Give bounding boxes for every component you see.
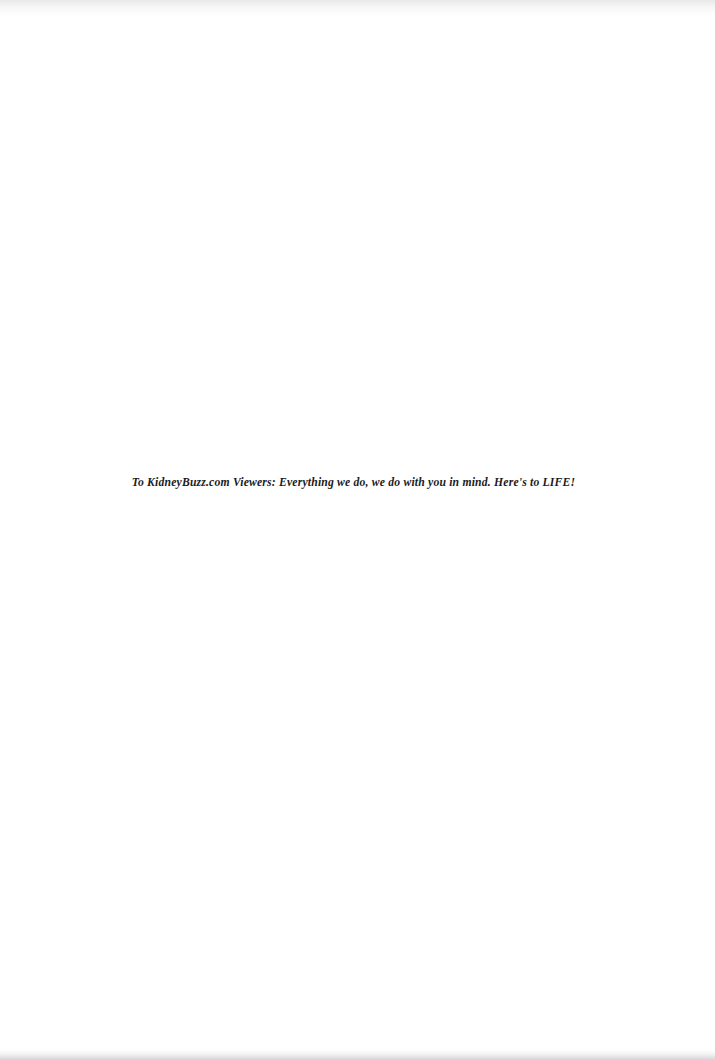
scan-artifact-top-edge [0,0,715,16]
document-page: To KidneyBuzz.com Viewers: Everything we… [0,0,715,1060]
page-body-text: To KidneyBuzz.com Viewers: Everything we… [0,472,715,491]
dedication-line: To KidneyBuzz.com Viewers: Everything we… [132,475,576,491]
scan-artifact-bottom-edge [0,1046,715,1060]
